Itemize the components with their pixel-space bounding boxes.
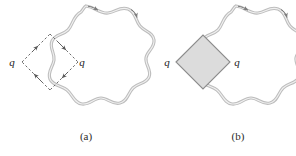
charge-label-right-a: q xyxy=(79,56,85,68)
caption-panel-a: (a) xyxy=(80,130,93,143)
panel-b-shaded-region xyxy=(176,35,230,89)
diamond-arrow-lower-left xyxy=(34,74,42,82)
charge-label-left-b: q xyxy=(164,56,170,68)
panel-a: q q (a) xyxy=(9,6,154,143)
diamond-arrow-upper-right xyxy=(58,42,66,50)
diamond-arrow-lower-right xyxy=(62,72,68,78)
wavy-curve-outer-stroke xyxy=(49,6,154,104)
panel-b: q q (b) xyxy=(164,6,296,143)
shaded-diamond-surface xyxy=(176,35,230,89)
caption-panel-b: (b) xyxy=(232,130,245,143)
charge-label-left-a: q xyxy=(9,56,15,68)
charge-label-right-b: q xyxy=(234,56,240,68)
physics-figure: q q (a) q q (b) xyxy=(0,0,296,156)
panel-a-closed-curve xyxy=(49,6,154,104)
diamond-arrow-upper-left xyxy=(32,46,38,52)
